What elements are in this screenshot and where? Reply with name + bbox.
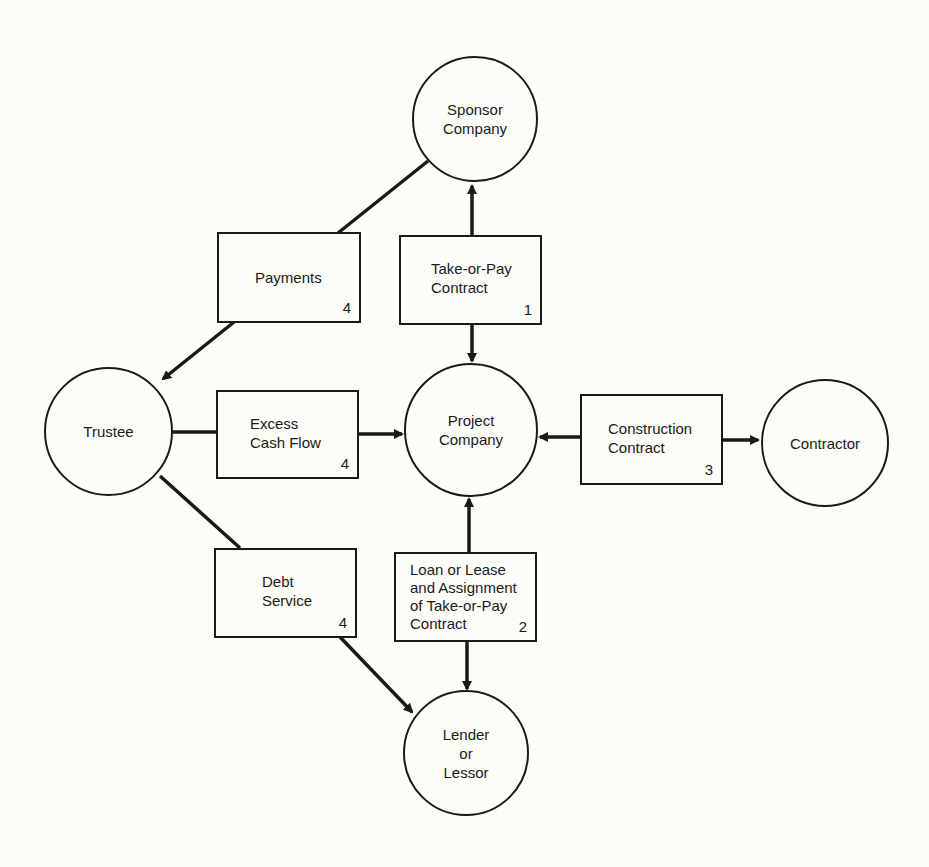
node-label: Lender or Lessor [443, 725, 490, 782]
arrow-payments-trustee [163, 322, 234, 379]
arrow-debt-lender [340, 637, 412, 712]
step-number: 4 [341, 454, 349, 473]
box-label: Payments [219, 267, 359, 286]
step-number: 2 [519, 617, 527, 636]
box-take-or-pay-contract: Take-or-Pay Contract 1 [399, 235, 542, 325]
box-label: Loan or Lease and Assignment of Take-or-… [396, 561, 535, 633]
node-sponsor-company: Sponsor Company [412, 56, 538, 182]
node-label: Project Company [439, 411, 503, 449]
node-label: Sponsor Company [443, 100, 507, 138]
node-project-company: Project Company [404, 363, 538, 497]
box-payments: Payments 4 [217, 232, 361, 323]
node-label: Trustee [83, 422, 133, 441]
line-sponsor-payments [338, 161, 428, 233]
box-label: Construction Contract [582, 419, 721, 457]
box-label: Excess Cash Flow [218, 414, 357, 452]
step-number: 3 [705, 460, 713, 479]
box-loan-or-lease-assignment: Loan or Lease and Assignment of Take-or-… [394, 552, 537, 642]
node-label: Contractor [790, 434, 860, 453]
box-construction-contract: Construction Contract 3 [580, 394, 723, 485]
node-contractor: Contractor [761, 379, 889, 507]
step-number: 4 [343, 298, 351, 317]
node-trustee: Trustee [44, 367, 173, 496]
step-number: 4 [339, 613, 347, 632]
box-debt-service: Debt Service 4 [214, 548, 357, 638]
line-trustee-debt [160, 476, 240, 548]
node-lender-or-lessor: Lender or Lessor [403, 690, 529, 816]
box-label: Debt Service [216, 572, 355, 610]
step-number: 1 [524, 300, 532, 319]
box-label: Take-or-Pay Contract [401, 259, 540, 297]
box-excess-cash-flow: Excess Cash Flow 4 [216, 390, 359, 479]
